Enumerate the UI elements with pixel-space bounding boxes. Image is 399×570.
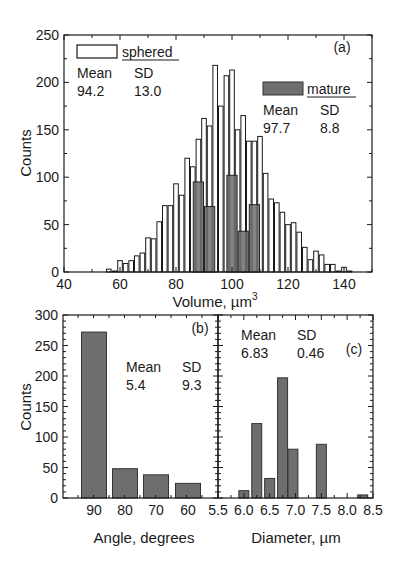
sphered-bar xyxy=(129,261,134,272)
x-tick-label: 140 xyxy=(332,276,356,292)
panel-b-y-axis-title: Counts xyxy=(17,383,34,431)
sphered-bar xyxy=(185,158,190,272)
diameter-bar xyxy=(288,449,298,498)
sphered-mean-value: 94.2 xyxy=(77,83,104,99)
sphered-legend-swatch xyxy=(77,45,117,58)
diameter-mean-value: 6.83 xyxy=(241,345,268,361)
x-tick-label: 8.5 xyxy=(363,502,383,518)
y-tick-label: 50 xyxy=(42,460,58,476)
diameter-mean-label: Mean xyxy=(241,327,276,343)
angle-bar xyxy=(176,483,201,498)
panel-c-label: (c) xyxy=(346,341,362,357)
diameter-sd-value: 0.46 xyxy=(297,345,324,361)
y-tick-label: 100 xyxy=(35,429,59,445)
x-tick-label: 60 xyxy=(180,502,196,518)
x-tick-label: 5.5 xyxy=(208,502,228,518)
y-tick-label: 50 xyxy=(43,217,59,233)
y-tick-label: 0 xyxy=(50,490,58,506)
diameter-sd-label: SD xyxy=(297,327,316,343)
sphered-bar xyxy=(168,206,173,272)
mature-mean-label: Mean xyxy=(263,102,298,118)
y-tick-label: 0 xyxy=(51,264,59,280)
y-tick-label: 200 xyxy=(35,368,59,384)
angle-sd-label: SD xyxy=(182,359,201,375)
sphered-bar xyxy=(163,206,168,272)
angle-sd-value: 9.3 xyxy=(182,377,202,393)
sphered-mean-label: Mean xyxy=(77,65,112,81)
sphered-bar xyxy=(157,222,162,272)
y-tick-label: 250 xyxy=(36,27,60,43)
sphered-bar xyxy=(331,264,336,272)
panel-b-x-axis-title: Angle, degrees xyxy=(94,529,195,546)
panel-a-histogram: 406080100120140 050100150200250 (a) sphe… xyxy=(17,27,372,310)
x-tick-label: 90 xyxy=(86,502,102,518)
panel-b-label: (b) xyxy=(191,320,208,336)
sphered-bar xyxy=(314,251,319,272)
diameter-bar xyxy=(316,444,326,498)
x-tick-label: 6.5 xyxy=(260,502,280,518)
diameter-bar xyxy=(278,378,288,498)
mature-sd-label: SD xyxy=(320,102,339,118)
mature-bar xyxy=(205,207,215,272)
mature-mean-value: 97.7 xyxy=(263,120,290,136)
panel-c-x-axis-title: Diameter, µm xyxy=(251,529,341,546)
sphered-bar xyxy=(297,232,302,272)
y-tick-label: 150 xyxy=(35,399,59,415)
sphered-bar xyxy=(135,256,140,272)
panel-a-label: (a) xyxy=(333,39,350,55)
x-tick-label: 7.5 xyxy=(312,502,332,518)
angle-mean-value: 5.4 xyxy=(126,377,146,393)
angle-mean-label: Mean xyxy=(126,359,161,375)
y-tick-label: 100 xyxy=(36,169,60,185)
x-tick-label: 7.0 xyxy=(286,502,306,518)
sphered-bar xyxy=(263,173,268,272)
mature-bar xyxy=(227,175,237,272)
mature-bar xyxy=(249,205,259,272)
sphered-sd-label: SD xyxy=(134,65,153,81)
sphered-bar xyxy=(286,225,291,272)
y-tick-label: 250 xyxy=(35,338,59,354)
sphered-bar xyxy=(219,106,224,272)
sphered-bar xyxy=(308,260,313,272)
panel-a-y-axis-title: Counts xyxy=(17,129,34,177)
angle-bar xyxy=(82,332,107,498)
x-tick-label: 100 xyxy=(220,276,244,292)
sphered-legend-label: sphered xyxy=(122,44,173,60)
x-tick-label: 80 xyxy=(168,276,184,292)
figure: 406080100120140 050100150200250 (a) sphe… xyxy=(0,0,399,570)
sphered-bar xyxy=(325,264,330,272)
sphered-bar xyxy=(319,255,324,272)
sphered-bar xyxy=(179,195,184,272)
y-tick-label: 300 xyxy=(35,307,59,323)
angle-bars xyxy=(82,332,201,498)
mature-bar xyxy=(238,231,248,272)
y-tick-label: 150 xyxy=(36,122,60,138)
mature-bar xyxy=(193,182,203,272)
x-tick-label: 80 xyxy=(117,502,133,518)
sphered-bar xyxy=(140,253,145,272)
sphered-bar xyxy=(123,263,128,272)
x-tick-label: 8.0 xyxy=(337,502,357,518)
panel-a-x-axis-title: Volume, µm3 xyxy=(172,291,258,310)
angle-bar xyxy=(113,469,138,498)
x-tick-label: 60 xyxy=(112,276,128,292)
mature-sd-value: 8.8 xyxy=(320,120,340,136)
sphered-bar xyxy=(280,212,285,272)
sphered-sd-value: 13.0 xyxy=(134,83,161,99)
panel-c-diameter: 5.56.06.57.07.58.08.5 (c) Mean SD 6.83 0… xyxy=(208,315,383,546)
diameter-bars xyxy=(239,378,368,498)
mature-legend-swatch xyxy=(263,82,303,95)
sphered-bar xyxy=(146,238,151,272)
panel-b-angle: 05010015020025030090807060 (b) Mean SD 5… xyxy=(17,307,223,546)
x-tick-label: 6.0 xyxy=(234,502,254,518)
x-tick-label: 120 xyxy=(276,276,300,292)
mature-legend-label: mature xyxy=(307,81,351,97)
sphered-bar xyxy=(275,203,280,272)
angle-bar xyxy=(144,475,169,498)
sphered-bar xyxy=(269,199,274,272)
sphered-bar xyxy=(303,247,308,272)
sphered-bar xyxy=(291,223,296,272)
x-tick-label: 70 xyxy=(148,502,164,518)
diameter-bar xyxy=(252,424,262,498)
sphered-bar xyxy=(174,184,179,272)
